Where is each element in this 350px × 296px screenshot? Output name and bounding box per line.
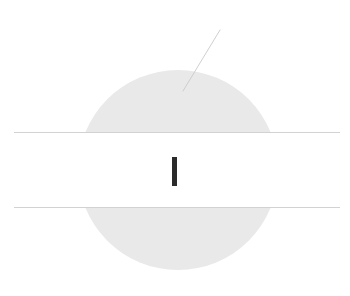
image-canvas xyxy=(0,0,350,296)
abstract-figure xyxy=(0,0,350,296)
center-vertical-mark xyxy=(172,157,177,186)
